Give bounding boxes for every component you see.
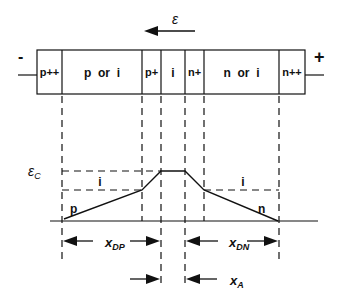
arrow-left-icon: [186, 236, 200, 246]
xa-label: xA: [229, 273, 244, 290]
arrow-right-icon: [146, 274, 160, 284]
arrow-left-icon: [186, 274, 200, 284]
n-label: n: [258, 202, 265, 216]
arrow-left-icon: [144, 26, 158, 36]
region-p-plus-plus: p++: [40, 66, 60, 78]
region-n-plus-plus: n++: [282, 66, 302, 78]
intrinsic-label-left: i: [98, 175, 101, 189]
field-label: ε: [172, 11, 179, 27]
field-profile: [64, 171, 278, 221]
xdn-label: xDN: [228, 235, 250, 252]
region-n-plus: n+: [188, 66, 201, 78]
xdp-dimension: xDP: [63, 235, 160, 252]
arrow-left-icon: [63, 236, 77, 246]
intrinsic-label-right: i: [241, 175, 244, 189]
critical-field-label: εC: [28, 163, 41, 181]
xa-dimension: xA: [130, 273, 244, 290]
apd-diagram: ε - + p++ p or i p+ i n+ n or i n++: [0, 0, 342, 304]
arrow-right-icon: [146, 236, 160, 246]
region-n-or-i: n or i: [224, 66, 260, 80]
region-p-or-i: p or i: [84, 66, 120, 80]
xdn-dimension: xDN: [186, 235, 278, 252]
field-arrow: [144, 26, 195, 36]
field-levels: [62, 171, 279, 190]
region-p-plus: p+: [145, 66, 158, 78]
vertical-guides: [62, 96, 279, 288]
positive-terminal: +: [314, 47, 325, 67]
negative-terminal: -: [18, 48, 23, 65]
p-label: p: [70, 202, 77, 216]
region-i: i: [171, 66, 174, 80]
arrow-right-icon: [264, 236, 278, 246]
xdp-label: xDP: [104, 235, 126, 252]
